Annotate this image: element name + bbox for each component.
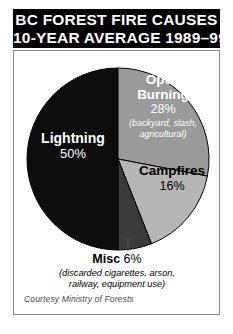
misc-headline: Misc 6%	[32, 253, 202, 267]
chart-title-bar: BC FOREST FIRE CAUSES 10-YEAR AVERAGE 19…	[13, 9, 220, 48]
page-subtitle: 10-YEAR AVERAGE 1989–99	[13, 29, 220, 47]
misc-note-line-1: (discarded cigarettes, arson,	[59, 268, 175, 278]
pie-chart-svg	[14, 51, 219, 251]
chart-panel: Open Burning 28% (backyard, slash, agric…	[13, 50, 220, 315]
pie-chart: Open Burning 28% (backyard, slash, agric…	[14, 51, 219, 251]
pie-slice-open-burning[interactable]	[118, 68, 209, 176]
slice-label-misc: Misc 6% (discarded cigarettes, arson, ra…	[32, 253, 202, 289]
misc-note: (discarded cigarettes, arson, railway, e…	[32, 268, 202, 290]
misc-percent: 6%	[124, 252, 142, 266]
page-title: BC FOREST FIRE CAUSES	[13, 11, 220, 29]
misc-name: Misc	[92, 252, 120, 266]
infographic-card: BC FOREST FIRE CAUSES 10-YEAR AVERAGE 19…	[13, 9, 220, 315]
misc-note-line-2: railway, equipment use)	[69, 279, 165, 289]
source-credit: Courtesy Ministry of Forests	[24, 294, 134, 304]
pie-slice-lightning[interactable]	[27, 68, 118, 250]
